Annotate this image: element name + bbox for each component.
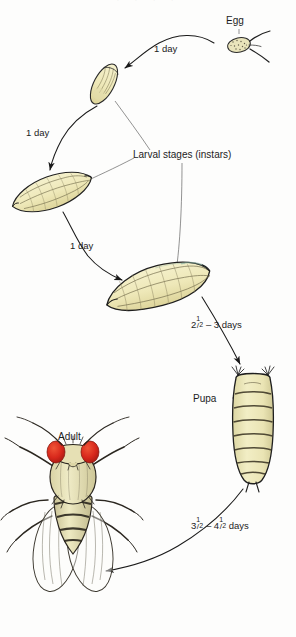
fly-eye-right [81,441,99,463]
specimen-egg [226,31,270,62]
fraction-one-half-first: 1/2 [196,519,203,529]
fraction-one-half-second: 1/2 [219,519,226,529]
label-larval-stages: Larval stages (instars) [133,150,231,160]
specimen-second-instar-larva [7,163,97,222]
duration-third-instar-to-pupa: 21/2 – 3 days [191,318,242,329]
label-egg: Egg [226,16,244,26]
duration-second-to-third-instar: 1 day [70,241,93,251]
life-cycle-illustration [0,0,296,637]
specimen-first-instar-larva [85,60,123,108]
duration-egg-to-first-instar: 1 day [154,44,177,54]
fraction-one-half: 1/2 [196,318,203,328]
specimen-pupa [232,366,274,492]
duration-pupa-to-adult: 31/2 – 41/2 days [191,519,249,530]
duration-first-to-second-instar: 1 day [26,128,49,138]
label-adult: Adult [58,432,81,442]
fly-eye-left [47,441,65,463]
duration2-middle-part: – 4 [203,520,219,531]
duration2-tail-part: days [226,520,249,531]
specimen-third-instar-larva [101,254,215,319]
figure-canvas: · · · · [0,0,296,637]
duration-tail-part: – 3 days [203,319,242,330]
label-pupa: Pupa [193,394,216,404]
